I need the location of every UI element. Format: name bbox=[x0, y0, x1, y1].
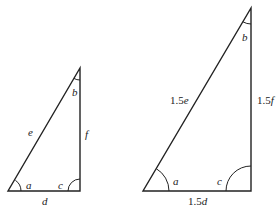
large-angle-c-label: c bbox=[217, 175, 222, 187]
small-angle-b-label: b bbox=[72, 86, 78, 98]
similar-triangles-diagram: a c b e f d a c b 1.5e 1.5f 1.5d bbox=[0, 0, 278, 210]
small-angle-b-arc bbox=[74, 78, 80, 80]
small-angle-a-label: a bbox=[26, 179, 32, 191]
small-triangle: a c b e f d bbox=[8, 68, 90, 207]
large-triangle: a c b 1.5e 1.5f 1.5d bbox=[143, 8, 276, 207]
large-side-d-label: 1.5d bbox=[188, 195, 208, 207]
large-triangle-outline bbox=[143, 8, 251, 191]
small-side-d-label: d bbox=[42, 195, 48, 207]
large-angle-b-arc bbox=[243, 22, 251, 24]
small-triangle-outline bbox=[8, 68, 80, 191]
large-side-f-label: 1.5f bbox=[257, 94, 276, 106]
small-angle-c-label: c bbox=[58, 179, 63, 191]
small-side-f-label: f bbox=[85, 128, 90, 140]
large-angle-b-label: b bbox=[242, 31, 248, 43]
small-angle-a-arc bbox=[15, 180, 21, 191]
large-angle-c-arc bbox=[226, 166, 251, 191]
large-angle-a-label: a bbox=[173, 175, 179, 187]
large-angle-a-arc bbox=[156, 169, 169, 191]
small-side-e-label: e bbox=[28, 126, 33, 138]
small-angle-c-arc bbox=[68, 179, 80, 191]
large-side-e-label: 1.5e bbox=[170, 94, 189, 106]
